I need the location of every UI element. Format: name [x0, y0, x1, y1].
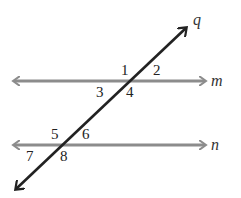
label-q: q: [193, 11, 201, 29]
angle-1: 1: [121, 62, 129, 78]
angle-6: 6: [82, 126, 90, 142]
line-q: [16, 28, 186, 189]
angle-5: 5: [51, 126, 59, 142]
angle-7: 7: [26, 148, 34, 164]
angle-4: 4: [126, 84, 134, 100]
angle-2: 2: [153, 62, 161, 78]
angle-8: 8: [60, 148, 68, 164]
label-m: m: [211, 72, 223, 89]
label-n: n: [211, 136, 219, 153]
diagram-canvas: m n q 1 2 3 4 5 6 7 8: [0, 0, 241, 198]
angle-3: 3: [96, 84, 104, 100]
